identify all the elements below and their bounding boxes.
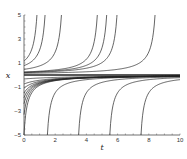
y-tick-label: −5 <box>14 132 22 138</box>
solution-curve <box>79 77 180 135</box>
y-tick-label: 1 <box>18 60 22 66</box>
x-tick-label: 6 <box>116 137 120 143</box>
y-axis-label: x <box>6 71 11 80</box>
solution-curves-chart: 0246810 −5−3−1135 t x <box>0 0 187 159</box>
y-tick-label: 3 <box>18 36 22 42</box>
x-tick-label: 2 <box>54 137 58 143</box>
x-tick-label: 8 <box>147 137 151 143</box>
x-tick-label: 0 <box>22 137 26 143</box>
solution-curve <box>24 15 61 69</box>
solution-curve <box>47 76 180 135</box>
y-tick-label: 5 <box>18 12 22 18</box>
solution-curves <box>24 15 180 135</box>
x-axis-label: t <box>100 143 104 152</box>
solution-curve <box>24 15 37 61</box>
y-tick-label: −1 <box>14 84 22 90</box>
y-tick-label: −3 <box>14 108 22 114</box>
x-tick-label: 4 <box>85 137 89 143</box>
solution-curve <box>110 78 180 135</box>
x-tick-label: 10 <box>177 137 184 143</box>
solution-curve <box>24 76 180 114</box>
solution-curve <box>141 80 180 135</box>
